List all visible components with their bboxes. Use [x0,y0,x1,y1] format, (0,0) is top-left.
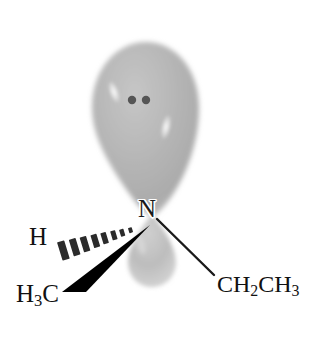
orbital-diagram: N H H3C CH2CH3 [0,0,318,344]
lone-pair-dot-left [128,96,136,104]
lone-pair-dot-right [142,96,150,104]
ethyl-subscript-1: 2 [250,282,258,299]
hashed-wedge-bond-to-hydrogen [57,220,135,260]
substituent-label-methyl: H3C [16,281,59,306]
methyl-subscript: 3 [34,291,42,310]
sp3-major-lobe [92,42,199,217]
ethyl-subscript-2: 3 [292,282,300,299]
ethyl-part-b: CH [258,271,291,297]
methyl-lead: H [16,280,34,307]
sp3-minor-lobe [128,214,176,287]
substituent-label-hydrogen: H [29,224,47,249]
ethyl-part-a: CH [217,271,250,297]
atom-label-nitrogen: N [138,196,156,221]
methyl-tail: C [42,280,59,307]
substituent-label-ethyl: CH2CH3 [217,272,300,296]
